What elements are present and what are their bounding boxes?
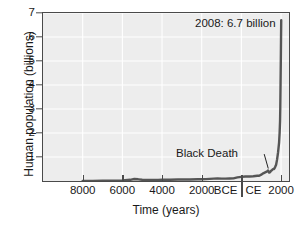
y-tick-label: 3: [13, 103, 35, 115]
y-tick-mark: [36, 132, 42, 133]
annotation-peak-label: 2008: 6.7 billion: [195, 18, 276, 30]
y-tick-mark: [36, 36, 42, 37]
y-tick-mark: [36, 60, 42, 61]
x-tick-mark: [122, 175, 123, 181]
bce-ce-divider: [241, 181, 242, 197]
x-tick-label: 4000: [149, 185, 175, 197]
x-tick-label: 2000: [268, 185, 294, 197]
annotation-leader-lines: [43, 13, 289, 181]
y-tick-label: 4: [13, 79, 35, 91]
y-tick-mark: [36, 12, 42, 13]
x-tick-mark: [281, 175, 282, 181]
x-tick-label: 2000: [189, 185, 215, 197]
x-tick-mark: [162, 175, 163, 181]
x-tick-mark: [202, 175, 203, 181]
y-tick-label: 2: [13, 127, 35, 139]
era-label-bce: BCE: [214, 185, 238, 197]
annotation-black-death-label: Black Death: [176, 148, 238, 160]
y-tick-mark: [36, 108, 42, 109]
y-tick-label: 5: [13, 55, 35, 67]
population-chart-figure: Human population (billions) Time (years)…: [0, 0, 308, 232]
y-tick-label: 1: [13, 151, 35, 163]
x-tick-mark: [83, 175, 84, 181]
y-tick-mark: [36, 84, 42, 85]
x-tick-label: 8000: [70, 185, 96, 197]
y-tick-label: 7: [13, 7, 35, 19]
x-axis-title: Time (years): [42, 203, 290, 217]
y-tick-mark: [36, 156, 42, 157]
era-label-ce: CE: [245, 185, 261, 197]
y-tick-label: 6: [13, 31, 35, 43]
x-tick-label: 6000: [110, 185, 136, 197]
plot-area: [42, 12, 290, 182]
